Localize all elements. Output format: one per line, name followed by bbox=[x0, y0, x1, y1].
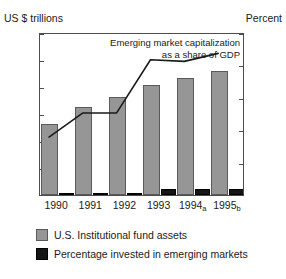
left-axis-title: US $ trillions bbox=[4, 12, 63, 24]
x-axis-label: 1994a bbox=[176, 199, 210, 213]
x-axis-label-year: 1995 bbox=[213, 199, 236, 211]
legend-item: Percentage invested in emerging markets bbox=[36, 244, 280, 263]
chart-figure: US $ trillions Percent 024681012 0102030… bbox=[0, 0, 286, 279]
x-axis-label: 1991 bbox=[73, 199, 107, 211]
x-axis-label-year: 1993 bbox=[147, 199, 170, 211]
legend-swatch-black bbox=[36, 248, 48, 260]
chart-annotation: Emerging market capitalization as a shar… bbox=[102, 37, 240, 60]
annotation-line-2: as a share of GDP bbox=[102, 49, 240, 61]
x-axis-label: 1993 bbox=[142, 199, 176, 211]
x-axis-label-year: 1994 bbox=[179, 199, 202, 211]
chart-legend: U.S. Institutional fund assetsPercentage… bbox=[36, 225, 280, 263]
right-axis-title: Percent bbox=[246, 12, 282, 24]
x-axis-label: 1995b bbox=[210, 199, 244, 213]
x-axis-label-footnote: b bbox=[237, 204, 241, 213]
x-axis-label: 1992 bbox=[107, 199, 141, 211]
legend-swatch-gray bbox=[36, 229, 48, 241]
line-path bbox=[49, 53, 218, 137]
x-axis-label-year: 1991 bbox=[79, 199, 102, 211]
annotation-line-1: Emerging market capitalization bbox=[102, 37, 240, 49]
legend-label: U.S. Institutional fund assets bbox=[54, 229, 187, 241]
x-axis-label: 1990 bbox=[39, 199, 73, 211]
legend-item: U.S. Institutional fund assets bbox=[36, 225, 280, 244]
legend-label: Percentage invested in emerging markets bbox=[54, 248, 248, 260]
x-axis-label-year: 1990 bbox=[44, 199, 67, 211]
x-axis-label-footnote: a bbox=[202, 204, 206, 213]
plot-area: 024681012 01020304050 Emerging market ca… bbox=[39, 33, 244, 196]
x-axis-label-year: 1992 bbox=[113, 199, 136, 211]
